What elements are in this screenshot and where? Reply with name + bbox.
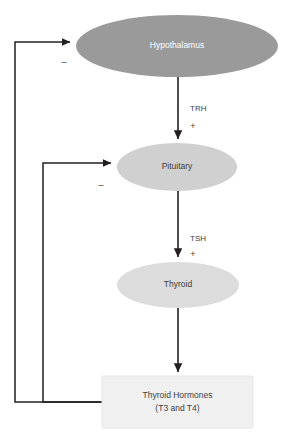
trh-edge: TRH + (178, 77, 207, 139)
node-hypothalamus[interactable]: Hypothalamus (76, 15, 278, 77)
pituitary-label: Pituitary (162, 161, 193, 171)
feedback-pituitary-line (43, 163, 111, 402)
feedback-hypothalamus-minus-sign: – (61, 57, 66, 67)
thyroid-hormones-box[interactable] (102, 376, 253, 428)
feedback-pituitary-edge: – (43, 163, 111, 402)
tsh-plus-sign: + (190, 249, 195, 259)
feedback-hypothalamus-line (15, 42, 102, 402)
trh-plus-sign: + (190, 121, 195, 131)
thyroid-label: Thyroid (164, 279, 193, 289)
feedback-hypothalamus-edge: – (15, 42, 102, 402)
hypothalamus-label: Hypothalamus (150, 40, 204, 50)
node-thyroid-hormones[interactable]: Thyroid Hormones (T3 and T4) (102, 376, 253, 428)
tsh-label: TSH (190, 234, 206, 243)
hpt-axis-diagram: – – Hypothalamus TRH + Pituitary TSH + (0, 0, 293, 439)
trh-label: TRH (190, 104, 207, 113)
node-thyroid[interactable]: Thyroid (117, 262, 239, 308)
thyroid-hormones-label-line2: (T3 and T4) (155, 403, 199, 413)
thyroid-hormones-label-line1: Thyroid Hormones (143, 390, 213, 400)
tsh-edge: TSH + (178, 191, 206, 259)
node-pituitary[interactable]: Pituitary (117, 143, 237, 191)
feedback-pituitary-minus-sign: – (98, 180, 103, 190)
diagram-canvas: – – Hypothalamus TRH + Pituitary TSH + (0, 0, 293, 439)
